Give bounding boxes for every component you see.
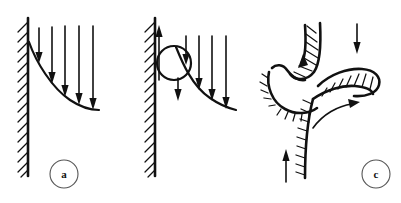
down-arrow-icon: [48, 27, 55, 84]
curved-arrow-shaft: [313, 104, 352, 128]
panel-label-c: c: [362, 160, 390, 188]
panel-label-c-text: c: [374, 168, 379, 180]
panel-label-a: a: [50, 160, 78, 188]
panel-a: a: [18, 18, 99, 188]
curved-arrow-icon: [313, 99, 360, 128]
stem-boundary-c: [296, 99, 313, 178]
panel-a-wall: [18, 18, 28, 177]
down-arrow-icon: [89, 26, 96, 110]
tongue-lobe-c: [313, 69, 379, 99]
down-arrow-icon: [208, 36, 215, 101]
wall-hatching: [145, 22, 155, 177]
down-arrow-icon: [61, 26, 68, 97]
down-arrow-icon: [353, 24, 360, 54]
down-arrow-icon: [174, 78, 181, 101]
panel-c: c: [260, 23, 390, 188]
panel-label-a-text: a: [61, 168, 67, 180]
up-arrow-icon: [282, 149, 289, 182]
tongue-lower-edge: [313, 86, 373, 99]
hooked-boundary-c: [290, 23, 320, 79]
flow-arrows-b: [174, 36, 229, 109]
curved-arrow-head: [348, 99, 360, 108]
down-arrow-icon: [195, 36, 202, 90]
panel-b: [145, 18, 236, 177]
down-arrow-icon: [222, 36, 229, 109]
down-arrow-icon: [75, 26, 82, 105]
panel-b-wall: [145, 18, 155, 177]
figure-canvas: a: [0, 0, 401, 203]
down-arrow-icon: [182, 36, 189, 65]
hook-tip-arrow-icon: [298, 54, 308, 68]
wall-hatching: [18, 22, 28, 177]
